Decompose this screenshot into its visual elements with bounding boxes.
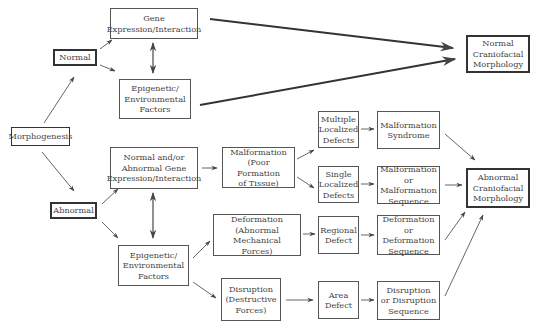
node-label: Deformation (Abnormal Mechanical Forces) <box>216 214 298 256</box>
node-regional-defect: Regional Defect <box>318 216 359 254</box>
node-disruption-sequence: Disruption or Disruption Sequence <box>377 281 440 320</box>
node-label: Normal and/or Abnormal Gene Expression/I… <box>107 152 202 184</box>
node-label: Epigenetic/ Environmental Factors <box>123 250 184 282</box>
node-label: Malformation or Malformation Sequence <box>380 164 437 206</box>
node-label: Gene Expression/Interaction <box>107 13 202 34</box>
node-deformation-sequence: Deformation or Deformation Sequence <box>377 215 440 255</box>
node-label: Disruption (Destructive Forces) <box>225 284 276 316</box>
node-abnormal-craniofacial: Abnormal Craniofacial Morphology <box>466 168 530 208</box>
node-label: Area Defect <box>325 290 352 311</box>
node-epigenetic-abnormal: Epigenetic/ Environmental Factors <box>118 245 189 286</box>
node-abnormal: Abnormal <box>50 202 97 219</box>
node-area-defect: Area Defect <box>318 281 359 319</box>
node-morphogenesis: Morphogenesis <box>11 127 70 146</box>
node-label: Disruption or Disruption Sequence <box>381 285 436 317</box>
node-malformation-syndrome: Malformation Syndrome <box>377 111 440 149</box>
node-multiple-localized-defects: Multiple Localized Defects <box>318 111 359 148</box>
node-disruption: Disruption (Destructive Forces) <box>221 278 281 321</box>
node-single-localized-defects: Single Localized Defects <box>318 166 359 203</box>
node-label: Malformation Syndrome <box>380 120 437 141</box>
node-label: Abnormal <box>53 205 94 216</box>
node-label: Morphogenesis <box>9 131 73 142</box>
node-label: Multiple Localized Defects <box>319 114 358 146</box>
node-label: Epigenetic/ Environmental Factors <box>124 83 185 115</box>
node-label: Malformation (Poor Formation of Tissue) <box>225 147 292 189</box>
node-deformation: Deformation (Abnormal Mechanical Forces) <box>213 214 301 256</box>
node-label: Regional Defect <box>320 225 357 246</box>
node-label: Abnormal Craniofacial Morphology <box>473 172 524 204</box>
node-gene-expression-normal: Gene Expression/Interaction <box>110 8 198 39</box>
node-normal: Normal <box>53 49 97 66</box>
node-malformation-sequence: Malformation or Malformation Sequence <box>377 166 440 204</box>
node-normal-craniofacial: Normal Craniofacial Morphology <box>466 35 530 73</box>
node-label: Deformation or Deformation Sequence <box>380 214 437 256</box>
node-malformation: Malformation (Poor Formation of Tissue) <box>222 147 295 188</box>
node-label: Normal Craniofacial Morphology <box>473 38 524 70</box>
node-epigenetic-normal: Epigenetic/ Environmental Factors <box>119 79 191 119</box>
node-gene-expression-abnormal: Normal and/or Abnormal Gene Expression/I… <box>110 147 198 189</box>
node-label: Normal <box>59 52 90 63</box>
node-label: Single Localized Defects <box>319 169 358 201</box>
